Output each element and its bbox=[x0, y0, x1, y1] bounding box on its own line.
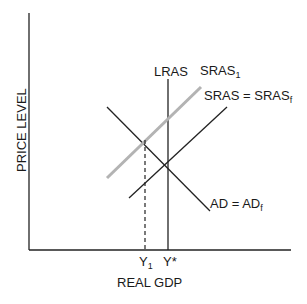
adas-diagram bbox=[0, 0, 307, 304]
ad-line bbox=[107, 107, 210, 211]
sras1-label-text: SRAS bbox=[200, 63, 235, 78]
y-axis-label: PRICE LEVEL bbox=[14, 88, 29, 172]
sras-f-label-text: SRAS = SRAS bbox=[204, 88, 290, 103]
sras1-label: SRAS1 bbox=[200, 64, 240, 80]
sras-f-line bbox=[129, 107, 227, 198]
ystar-tick-label: Y* bbox=[163, 255, 177, 268]
sras1-label-subscript: 1 bbox=[235, 70, 240, 80]
sras-f-label-subscript: f bbox=[290, 95, 293, 105]
y1-tick-label: Y1 bbox=[139, 255, 153, 271]
lras-label: LRAS bbox=[154, 65, 188, 78]
ad-label: AD = ADf bbox=[210, 197, 263, 213]
ad-label-text: AD = AD bbox=[210, 196, 260, 211]
sras-f-label: SRAS = SRASf bbox=[204, 89, 292, 105]
sras1-line bbox=[107, 87, 201, 178]
y1-tick-text: Y bbox=[139, 254, 148, 269]
ad-label-subscript: f bbox=[260, 203, 263, 213]
x-axis-label: REAL GDP bbox=[117, 276, 182, 289]
y1-tick-subscript: 1 bbox=[148, 261, 153, 271]
